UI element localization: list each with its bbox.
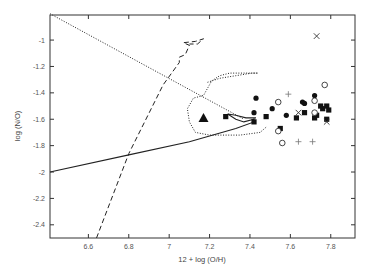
marker-circle-open [322, 82, 328, 88]
x-tick-label: 7.6 [285, 243, 295, 250]
marker-circle-open [279, 140, 285, 146]
y-tick-label: -1 [39, 37, 45, 44]
marker-circle-filled [312, 93, 317, 98]
y-tick-label: -1.4 [33, 89, 45, 96]
x-tick-label: 7.2 [205, 243, 215, 250]
y-tick-label: -1.6 [33, 116, 45, 123]
marker-square-filled [251, 119, 256, 124]
marker-circle-filled [253, 96, 258, 101]
marker-square-filled [223, 114, 228, 119]
x-axis-label: 12 + log (O/H) [178, 255, 226, 264]
marker-square-filled [294, 115, 299, 120]
marker-circle-open [275, 128, 281, 134]
marker-triangle-filled [199, 113, 209, 122]
marker-circle-filled [251, 110, 256, 115]
y-tick-label: -2.2 [33, 195, 45, 202]
curve-dotted [187, 73, 266, 135]
x-tick-label: 6.8 [124, 243, 134, 250]
marker-square-filled [318, 103, 323, 108]
marker-circle-open [312, 110, 318, 116]
y-tick-label: -2 [39, 169, 45, 176]
marker-circle-filled [284, 113, 289, 118]
marker-x [296, 110, 302, 116]
curve-dotted [50, 14, 244, 120]
x-tick-label: 7 [167, 243, 171, 250]
marker-square-filled [302, 110, 307, 115]
marker-circle-filled [302, 101, 307, 106]
plot-frame [50, 15, 355, 238]
marker-plus [310, 139, 316, 145]
data-points [199, 33, 332, 145]
y-tick-label: -2.4 [33, 221, 45, 228]
y-axis-label: log (N/O) [13, 110, 22, 141]
x-tick-label: 6.6 [84, 243, 94, 250]
marker-circle-open [275, 99, 281, 105]
marker-circle-filled [270, 106, 275, 111]
y-axis-ticks: -1-1.2-1.4-1.6-1.8-2-2.2-2.4 [33, 37, 355, 229]
model-curves [50, 14, 266, 238]
marker-square-filled [324, 117, 329, 122]
x-tick-label: 7.4 [245, 243, 255, 250]
marker-circle-open [312, 98, 318, 104]
marker-plus [295, 139, 301, 145]
marker-square-filled [264, 114, 269, 119]
marker-plus [285, 91, 291, 97]
x-axis-ticks: 6.66.877.27.47.67.8 [84, 15, 336, 250]
marker-square-filled [326, 107, 331, 112]
curve-solid [50, 114, 256, 172]
marker-x [314, 33, 320, 39]
x-tick-label: 7.8 [326, 243, 336, 250]
curve-dashed [97, 39, 204, 238]
y-tick-label: -1.8 [33, 142, 45, 149]
chart-plot: 6.66.877.27.47.67.8 -1-1.2-1.4-1.6-1.8-2… [0, 0, 372, 268]
y-tick-label: -1.2 [33, 63, 45, 70]
